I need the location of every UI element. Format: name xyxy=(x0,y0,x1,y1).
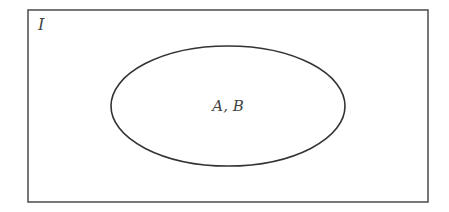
universe-label: I xyxy=(37,15,45,34)
venn-diagram: I A, B xyxy=(0,0,449,212)
set-label: A, B xyxy=(210,97,243,115)
